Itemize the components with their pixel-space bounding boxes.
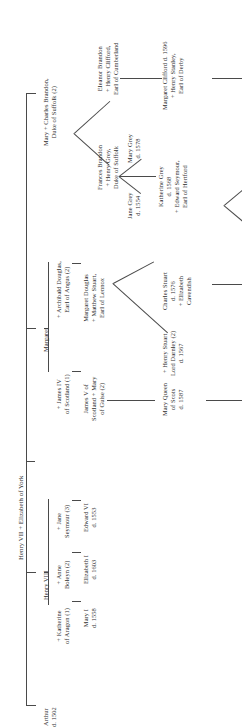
connector-mdouglas-henrydarnley xyxy=(112,283,168,333)
connector-eleanor-margaretclifford xyxy=(120,78,162,79)
connector-stub-margaret xyxy=(26,328,36,329)
node-jane-seymour: + Jane Seymour (3) xyxy=(55,505,71,538)
node-james-v: James V of Scotland + Mary of Guise (2) xyxy=(82,376,106,421)
node-mary-queen-of-scots: Mary Queen of Scots d. 1587 xyxy=(161,383,185,416)
node-root: Henry VII + Elizabeth of York xyxy=(17,475,25,560)
family-tree-diagram: Henry VII + Elizabeth of York Arthur d. … xyxy=(0,0,242,727)
node-anne-boleyn: + Anne Boleyn (2) xyxy=(55,560,71,589)
node-frances-brandon: Frances Brandon + Henry Grey, Duke of Su… xyxy=(96,145,120,190)
connector-katherinegrey-issue-lower xyxy=(223,205,242,222)
node-katherine-of-aragon: + Katherine of Aragon (1) xyxy=(55,608,71,644)
connector-james4-james5 xyxy=(72,371,81,372)
connector-stub-henry8 xyxy=(26,572,36,573)
connector-mdouglas-charles xyxy=(113,261,154,283)
node-margaret-clifford: Margaret Clifford d. 1596 + Henry Stanle… xyxy=(161,41,185,110)
connector-margaretclifford-issue xyxy=(212,78,242,79)
node-eleanor-brandon: Eleanor Brandon + Henry Clifford, Earl o… xyxy=(96,42,120,95)
connector-spine xyxy=(26,93,27,705)
connector-jane-edward6 xyxy=(72,500,81,501)
node-margaret: Margaret xyxy=(42,328,50,352)
connector-katherinegrey-issue-upper xyxy=(224,188,242,205)
node-henry8: Henry VIII xyxy=(42,571,50,600)
node-arthur: Arthur d. 1502 xyxy=(42,707,58,727)
node-jane-grey: Jane Grey d. 1554 xyxy=(126,192,142,219)
connector-frances-katherinegrey xyxy=(119,176,156,177)
node-elizabeth-i: Elizabeth I d. 1603 xyxy=(82,555,98,584)
connector-charles-cavendish-issue xyxy=(212,284,242,285)
connector-anne-elizabeth1 xyxy=(72,552,81,553)
connector-katherine-mary1 xyxy=(72,601,81,602)
connector-stub-arthur xyxy=(26,705,36,706)
node-james-iv: + James IV of Scotland (1) xyxy=(55,374,71,414)
connector-stub-mary xyxy=(26,93,36,94)
connector-james5-maryqs xyxy=(107,400,155,401)
node-edward-vi: Edward VI d. 1553 xyxy=(82,503,98,532)
node-mary-grey: Mary Grey d. 1578 xyxy=(126,134,142,163)
node-katherine-grey: Katherine Grey d. 1568 + Edward Seymour,… xyxy=(157,160,189,213)
connector-brandon-eleanor xyxy=(74,101,110,134)
connector-root-stub xyxy=(26,461,35,462)
connector-douglas-mdouglas xyxy=(72,263,81,264)
connector-margaret-spouses xyxy=(48,262,49,372)
connector-maryqs-darnley-issue xyxy=(206,400,242,401)
node-archibald-douglas: + Archibald Douglas, Earl of Angus (2) xyxy=(55,261,71,318)
node-margaret-douglas: Margaret Douglas + Matthew Stuart, Earl … xyxy=(82,274,106,322)
node-henry-stuart-darnley: + Henry Stuart Lord Darnley (2) d. 1567 xyxy=(161,331,185,376)
node-mary-i: Mary I d. 1558 xyxy=(82,608,98,628)
node-mary-charles-brandon: Mary + Charles Brandon, Duke of Suffolk … xyxy=(42,78,58,146)
node-charles-stuart: Charles Stuart d. 1576 + Elizabeth Caven… xyxy=(161,272,193,310)
